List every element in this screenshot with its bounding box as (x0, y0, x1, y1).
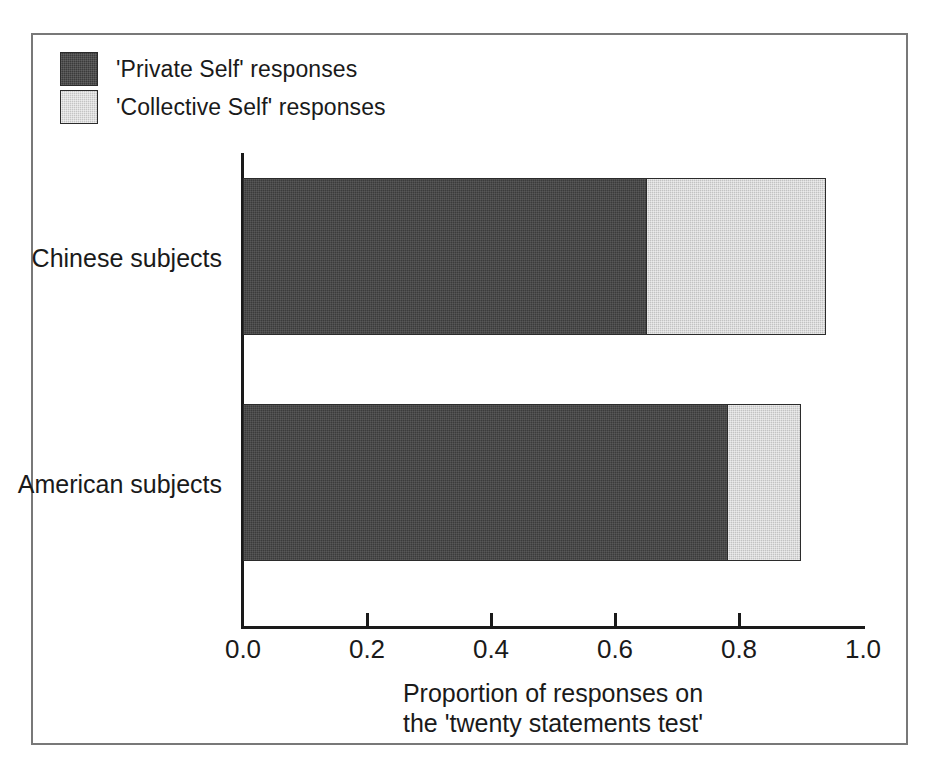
x-axis-tick-label-0.4: 0.4 (473, 634, 509, 665)
x-axis-title: Proportion of responses on the 'twenty s… (243, 678, 863, 738)
legend-label-private-self: 'Private Self' responses (116, 56, 357, 83)
bar-segment-private-self (243, 178, 646, 335)
chart-figure: 'Private Self' responses 'Collective Sel… (0, 0, 937, 771)
x-axis-tick-label-0.0: 0.0 (225, 634, 261, 665)
legend-swatch-collective-self (60, 90, 98, 124)
bar-chinese-subjects (243, 178, 826, 335)
x-axis-tick-0.8 (738, 613, 741, 626)
x-axis-tick-label-0.8: 0.8 (721, 634, 757, 665)
x-axis-tick-0.4 (490, 613, 493, 626)
x-axis-title-line-1: Proportion of responses on (243, 678, 863, 708)
legend-item-private-self: 'Private Self' responses (60, 50, 386, 88)
bar-segment-collective-self (646, 178, 826, 335)
category-label-american-subjects: American subjects (18, 470, 222, 499)
x-axis-tick-label-1.0: 1.0 (845, 634, 881, 665)
figure-frame-border (31, 33, 908, 745)
x-axis-title-line-2: the 'twenty statements test' (243, 708, 863, 738)
x-axis-tick-0.2 (366, 613, 369, 626)
x-axis-tick-label-0.6: 0.6 (597, 634, 633, 665)
x-axis-line (241, 626, 865, 629)
x-axis-tick-label-0.2: 0.2 (349, 634, 385, 665)
bar-segment-collective-self (727, 404, 801, 561)
chart-legend: 'Private Self' responses 'Collective Sel… (60, 50, 386, 126)
legend-item-collective-self: 'Collective Self' responses (60, 88, 386, 126)
bar-segment-private-self (243, 404, 727, 561)
category-label-chinese-subjects: Chinese subjects (32, 244, 222, 273)
legend-label-collective-self: 'Collective Self' responses (116, 94, 386, 121)
bar-american-subjects (243, 404, 801, 561)
legend-swatch-private-self (60, 52, 98, 86)
x-axis-tick-0.6 (614, 613, 617, 626)
